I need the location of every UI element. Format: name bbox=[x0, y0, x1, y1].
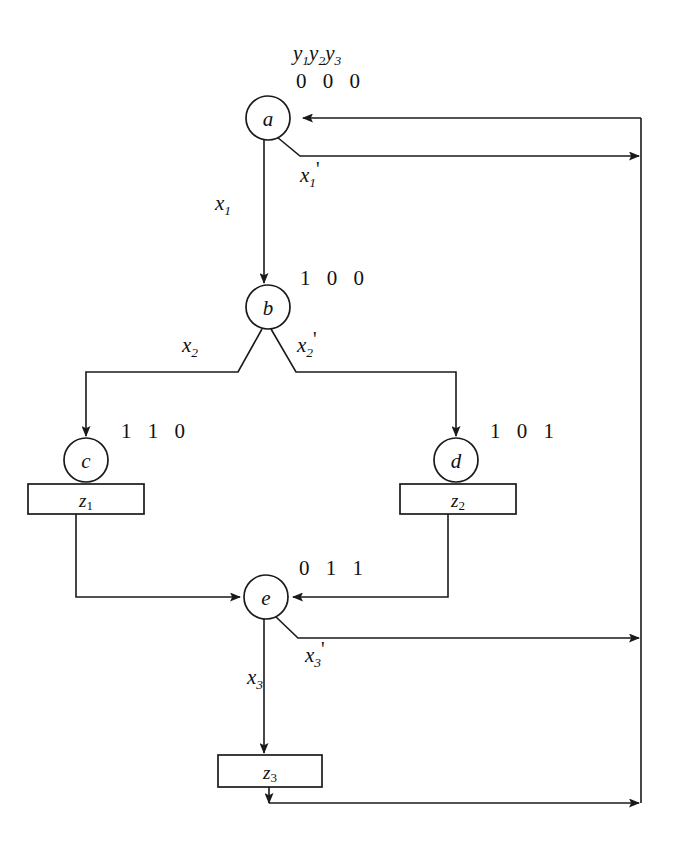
edge-label-x2-prime-text: x2' bbox=[296, 328, 317, 360]
state-code-e: 0 1 1 bbox=[299, 556, 369, 580]
edge-e-x3prime-line bbox=[275, 616, 639, 638]
edge-label-x3p-prime: ' bbox=[321, 638, 325, 660]
output-box-z1-sub: 1 bbox=[86, 498, 93, 513]
state-code-d: 1 0 1 bbox=[490, 419, 560, 443]
state-variable-header-text: y1y2y3 bbox=[291, 41, 341, 68]
output-box-z3[interactable]: z3 bbox=[218, 755, 322, 787]
edge-label-x1-prime-text: x1' bbox=[299, 158, 320, 190]
state-node-d[interactable]: d bbox=[434, 438, 478, 482]
edge-label-x2-prime: x2' bbox=[296, 328, 317, 360]
var-y3-sub: 3 bbox=[333, 53, 341, 68]
var-y3-base: y bbox=[323, 41, 335, 65]
state-node-a[interactable]: a bbox=[246, 96, 290, 140]
output-box-z3-sub: 3 bbox=[270, 770, 277, 785]
state-code-c: 1 1 0 bbox=[121, 419, 191, 443]
edge-c-z1-to-e-line bbox=[76, 514, 240, 597]
edge-label-x3: x3 bbox=[246, 665, 263, 692]
edge-label-x1: x1 bbox=[214, 191, 231, 218]
diagram-canvas: bus ============ --> b ============ --> … bbox=[0, 0, 683, 844]
state-node-b-label: b bbox=[263, 296, 274, 320]
edge-label-x1-text: x1 bbox=[214, 191, 231, 218]
output-box-z2[interactable]: z2 bbox=[400, 484, 516, 514]
state-node-b[interactable]: b bbox=[246, 285, 290, 329]
state-diagram-root: bus ============ --> b ============ --> … bbox=[0, 0, 683, 844]
var-y2-base: y bbox=[307, 41, 319, 65]
edge-a-x1prime-line bbox=[277, 137, 639, 156]
state-node-e[interactable]: e bbox=[244, 575, 288, 619]
state-node-c[interactable]: c bbox=[64, 438, 108, 482]
output-box-z2-sub: 2 bbox=[458, 498, 465, 513]
edge-label-x1p-sub: 1 bbox=[309, 175, 316, 190]
edge-label-x3-text: x3 bbox=[246, 665, 263, 692]
edge-a-x1prime-to-bus bbox=[277, 137, 639, 156]
var-y1-base: y bbox=[291, 41, 303, 65]
state-code-a: 0 0 0 bbox=[296, 69, 366, 93]
edge-label-x2: x2 bbox=[181, 333, 198, 360]
edge-label-x1-sub: 1 bbox=[224, 203, 231, 218]
edge-label-x3-prime-text: x3' bbox=[304, 638, 325, 670]
edge-label-x1-prime: x1' bbox=[299, 158, 320, 190]
state-code-b: 1 0 0 bbox=[300, 266, 370, 290]
state-variable-header: y1y2y3 bbox=[291, 41, 341, 68]
edge-label-x2-text: x2 bbox=[181, 333, 198, 360]
output-box-z1[interactable]: z1 bbox=[28, 484, 144, 514]
edge-label-x2p-prime: ' bbox=[313, 328, 317, 350]
edge-label-x2-sub: 2 bbox=[191, 345, 198, 360]
state-node-c-label: c bbox=[81, 449, 91, 473]
edge-e-x3prime-to-bus bbox=[275, 616, 639, 638]
edge-z3-to-bus bbox=[269, 787, 639, 803]
edge-c-z1-to-e bbox=[76, 514, 240, 597]
edge-label-x3-prime: x3' bbox=[304, 638, 325, 670]
state-node-a-label: a bbox=[263, 107, 274, 131]
state-node-d-label: d bbox=[451, 449, 462, 473]
edge-label-x1p-prime: ' bbox=[316, 158, 320, 180]
state-node-e-label: e bbox=[261, 586, 270, 610]
edge-label-x3-sub: 3 bbox=[255, 677, 263, 692]
var-y1-sub: 1 bbox=[302, 53, 309, 68]
